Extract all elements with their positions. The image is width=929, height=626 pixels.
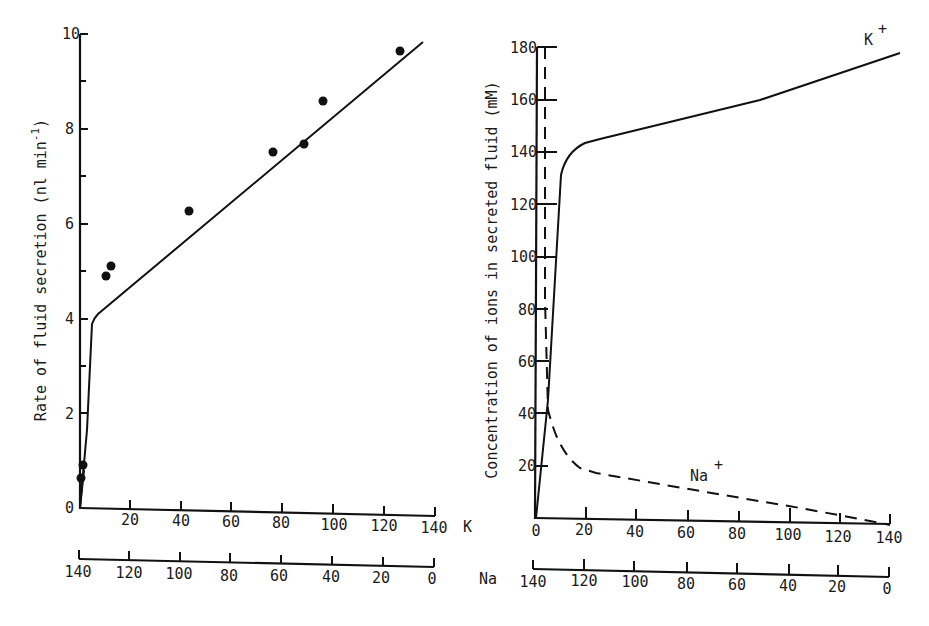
- right-y-ticks: [536, 47, 557, 466]
- left-y-ticks: [80, 34, 88, 413]
- right-k-tick-100: 100: [774, 526, 801, 544]
- right-na-tick-40: 40: [779, 577, 797, 595]
- left-na-tick-20: 20: [372, 569, 390, 587]
- left-k-tick-40: 40: [172, 512, 190, 530]
- right-y-tick-40: 40: [518, 405, 536, 423]
- right-y-tick-140: 140: [510, 143, 537, 161]
- left-k-tick-80: 80: [272, 514, 290, 532]
- data-point: [396, 47, 405, 56]
- right-k-tick-40: 40: [626, 523, 644, 541]
- left-fit-line: [80, 42, 423, 508]
- left-data-points: [77, 47, 405, 483]
- data-point: [185, 207, 194, 216]
- right-k-tick-140: 140: [875, 529, 902, 547]
- k-plus-label: K: [864, 31, 873, 49]
- right-y-tick-20: 20: [518, 457, 536, 475]
- data-point: [79, 461, 88, 470]
- left-k-tick-120: 120: [370, 517, 397, 535]
- left-k-tick-140: 140: [420, 519, 447, 537]
- left-na-tick-60: 60: [270, 567, 288, 585]
- right-y-axis-title: Concentration of ions in secreted fluid …: [483, 81, 501, 478]
- left-k-tick-100: 100: [320, 516, 347, 534]
- data-point: [107, 262, 116, 271]
- left-k-tick-20: 20: [121, 511, 139, 529]
- data-point: [77, 474, 86, 483]
- left-k-axis-label: K: [463, 518, 472, 536]
- right-na-tick-140: 140: [519, 573, 546, 591]
- right-chart: 20 40 60 80 100 120 140 160 180 Concentr…: [479, 20, 903, 598]
- left-y-tick-10: 10: [62, 25, 80, 43]
- na-axis-label: Na: [479, 570, 497, 588]
- left-na-tick-140: 140: [64, 563, 91, 581]
- right-k-tick-60: 60: [677, 524, 695, 542]
- left-y-tick-8: 8: [65, 120, 74, 138]
- k-plus-curve: [536, 53, 900, 518]
- k-plus-sup: +: [878, 20, 887, 38]
- right-y-tick-120: 120: [510, 196, 537, 214]
- left-chart: 0 2 4 6 8 10 Rate of fluid secretion (nl…: [29, 25, 472, 588]
- data-point: [269, 148, 278, 157]
- left-na-tick-100: 100: [165, 565, 192, 583]
- data-point: [102, 272, 111, 281]
- figure: 0 2 4 6 8 10 Rate of fluid secretion (nl…: [0, 0, 929, 626]
- na-plus-label: Na: [690, 467, 708, 485]
- right-y-tick-100: 100: [510, 248, 537, 266]
- right-y-tick-160: 160: [510, 91, 537, 109]
- right-k-tick-20: 20: [575, 521, 593, 539]
- na-plus-sup: +: [714, 456, 723, 474]
- left-k-tick-60: 60: [222, 513, 240, 531]
- na-plus-curve: [545, 47, 890, 525]
- right-na-tick-20: 20: [828, 578, 846, 596]
- right-na-tick-60: 60: [728, 576, 746, 594]
- right-na-tick-0: 0: [882, 580, 891, 598]
- data-point: [319, 97, 328, 106]
- data-point: [300, 140, 309, 149]
- right-y-axis: [535, 47, 537, 519]
- right-na-tick-80: 80: [677, 575, 695, 593]
- left-na-tick-120: 120: [115, 564, 142, 582]
- right-na-tick-100: 100: [621, 573, 648, 591]
- left-na-tick-80: 80: [220, 567, 238, 585]
- right-k-tick-120: 120: [824, 528, 851, 546]
- right-na-tick-120: 120: [570, 572, 597, 590]
- left-na-tick-40: 40: [322, 568, 340, 586]
- left-y-tick-4: 4: [65, 310, 74, 328]
- left-na-tick-0: 0: [427, 570, 436, 588]
- right-k-tick-0: 0: [531, 522, 540, 540]
- right-y-tick-80: 80: [518, 301, 536, 319]
- right-y-tick-60: 60: [518, 353, 536, 371]
- left-y-tick-0: 0: [65, 499, 74, 517]
- right-y-tick-180: 180: [510, 39, 537, 57]
- right-k-tick-80: 80: [728, 525, 746, 543]
- left-y-tick-6: 6: [65, 215, 74, 233]
- left-y-axis-title: Rate of fluid secretion (nl min-1): [29, 119, 50, 421]
- left-y-tick-2: 2: [65, 405, 74, 423]
